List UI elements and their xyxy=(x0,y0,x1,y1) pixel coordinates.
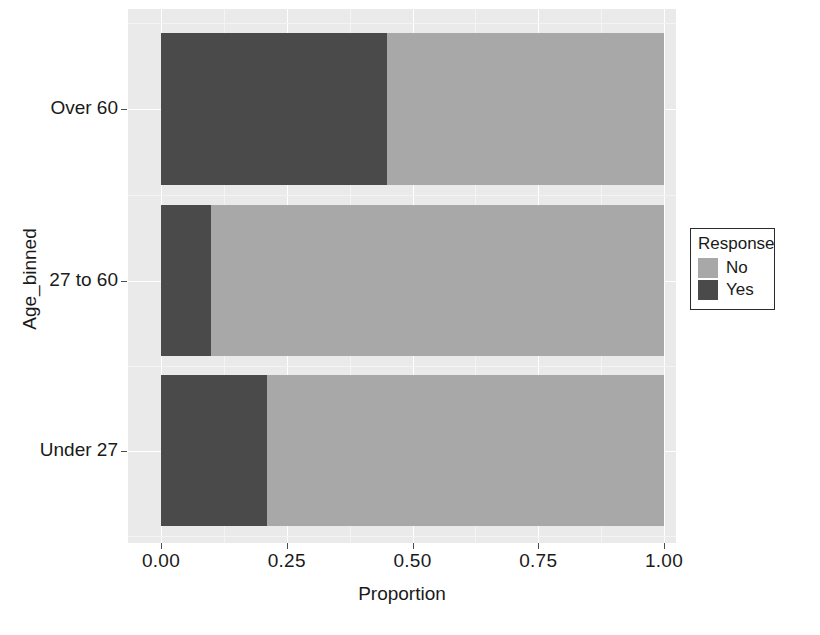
y-tick-label: Under 27 xyxy=(40,439,118,461)
gridline-vertical-major xyxy=(664,9,665,543)
bar-segment-yes[interactable] xyxy=(161,33,387,185)
gridline-horizontal-minor xyxy=(128,195,676,196)
x-axis-title: Proportion xyxy=(0,583,804,605)
x-tick-mark xyxy=(413,543,414,549)
legend-title: Response xyxy=(698,234,768,254)
x-tick-label: 0.00 xyxy=(121,550,201,572)
gridline-horizontal-minor xyxy=(128,366,676,367)
bar-segment-no[interactable] xyxy=(267,375,664,526)
y-tick-label: Over 60 xyxy=(50,97,118,119)
legend-swatch-yes xyxy=(698,280,718,300)
bar-row[interactable] xyxy=(161,375,664,526)
y-tick-mark xyxy=(121,451,127,452)
legend: Response NoYes xyxy=(690,228,775,310)
x-tick-label: 0.75 xyxy=(498,550,578,572)
x-tick-label: 0.25 xyxy=(247,550,327,572)
bar-row[interactable] xyxy=(161,33,664,185)
x-tick-mark xyxy=(538,543,539,549)
plot-panel xyxy=(128,9,676,543)
bar-segment-no[interactable] xyxy=(387,33,664,185)
gridline-horizontal-minor xyxy=(128,536,676,537)
x-tick-label: 1.00 xyxy=(624,550,704,572)
legend-label: Yes xyxy=(726,280,754,300)
bar-row[interactable] xyxy=(161,205,664,356)
bar-segment-yes[interactable] xyxy=(161,205,211,356)
gridline-horizontal-minor xyxy=(128,23,676,24)
x-tick-mark xyxy=(161,543,162,549)
legend-item[interactable]: Yes xyxy=(698,280,768,300)
legend-label: No xyxy=(726,258,748,278)
x-tick-mark xyxy=(287,543,288,549)
legend-swatch-no xyxy=(698,258,718,278)
x-tick-mark xyxy=(664,543,665,549)
bar-segment-yes[interactable] xyxy=(161,375,267,526)
bar-segment-no[interactable] xyxy=(211,205,664,356)
y-tick-mark xyxy=(121,109,127,110)
y-tick-label: 27 to 60 xyxy=(49,269,118,291)
y-tick-mark xyxy=(121,281,127,282)
y-axis-title: Age_binned xyxy=(19,139,41,419)
legend-items: NoYes xyxy=(698,258,768,300)
stacked-bar-chart-figure: 0.000.250.500.751.00 Proportion Over 602… xyxy=(0,0,820,635)
legend-item[interactable]: No xyxy=(698,258,768,278)
x-tick-label: 0.50 xyxy=(373,550,453,572)
